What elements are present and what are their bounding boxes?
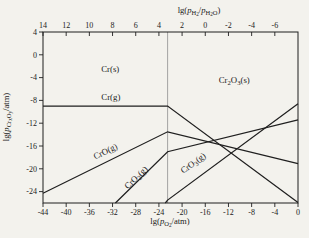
cr-o-volatility-chart: -44-40-36-32-28-24-20-16-12-8-4014121086… [0, 0, 309, 238]
y-axis-tick-label: -16 [26, 142, 37, 151]
top-axis-tick-label: 6 [134, 21, 138, 30]
x-axis-tick-label: 0 [296, 208, 300, 217]
label-cr2o3-s: Cr2O3(s) [219, 75, 250, 86]
top-axis-tick-label: -4 [248, 21, 255, 30]
y-axis-tick-label: -20 [26, 165, 37, 174]
label-cr-g: Cr(g) [101, 92, 120, 102]
x-axis-tick-label: -8 [248, 208, 255, 217]
top-axis-tick-label: 10 [85, 21, 93, 30]
x-axis-tick-label: -44 [38, 208, 49, 217]
y-axis-tick-label: -24 [26, 187, 37, 196]
top-axis-tick-label: 14 [39, 21, 47, 30]
x-axis-tick-label: -40 [61, 208, 72, 217]
top-axis-tick-label: -6 [271, 21, 278, 30]
top-axis-tick-label: 4 [157, 21, 161, 30]
top-axis-tick-label: 8 [111, 21, 115, 30]
y-axis-tick-label: -12 [26, 119, 37, 128]
top-axis-tick-label: -2 [225, 21, 232, 30]
x-axis-tick-label: -28 [130, 208, 141, 217]
x-axis-tick-label: -12 [223, 208, 234, 217]
top-axis-tick-label: 12 [62, 21, 70, 30]
y-axis-tick-label: 4 [33, 28, 37, 37]
top-axis-tick-label: 0 [203, 21, 207, 30]
figure-background [0, 0, 309, 238]
x-axis-tick-label: -36 [84, 208, 95, 217]
x-axis-tick-label: -16 [200, 208, 211, 217]
y-axis-tick-label: -4 [30, 73, 37, 82]
x-axis-tick-label: -32 [107, 208, 118, 217]
y-axis-tick-label: -8 [30, 96, 37, 105]
x-axis-tick-label: -4 [271, 208, 278, 217]
cr-o-volatility-figure: -44-40-36-32-28-24-20-16-12-8-4014121086… [0, 0, 309, 238]
top-axis-tick-label: 2 [180, 21, 184, 30]
label-cr-s: Cr(s) [101, 64, 119, 74]
y-axis-tick-label: 0 [33, 51, 37, 60]
